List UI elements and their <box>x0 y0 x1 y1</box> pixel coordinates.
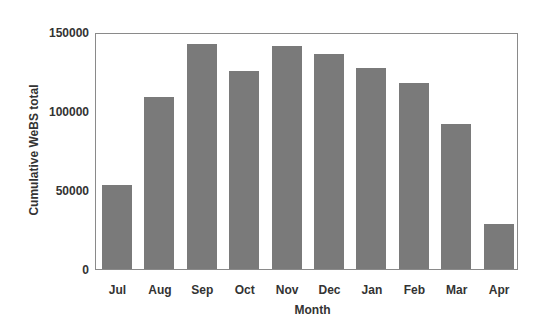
y-tick-label: 50000 <box>56 184 89 198</box>
bar-sep <box>187 44 217 269</box>
x-tick-label: Mar <box>437 283 477 297</box>
bar-apr <box>484 224 514 269</box>
bar-nov <box>272 46 302 269</box>
bar-jul <box>102 185 132 269</box>
plot-area <box>95 33 518 270</box>
x-tick-label: Oct <box>225 283 265 297</box>
y-axis-label: Cumulative WeBS total <box>27 84 41 215</box>
y-tick-label: 100000 <box>49 105 89 119</box>
bar-feb <box>399 83 429 269</box>
y-tick-label: 150000 <box>49 26 89 40</box>
x-tick-label: Aug <box>140 283 180 297</box>
y-tick-label: 0 <box>82 263 89 277</box>
x-tick-label: Jan <box>352 283 392 297</box>
x-tick-label: Sep <box>182 283 222 297</box>
bar-chart: Cumulative WeBS total 0 50000 100000 150… <box>0 0 540 326</box>
bar-dec <box>314 54 344 269</box>
bar-aug <box>144 97 174 269</box>
bar-jan <box>356 68 386 269</box>
x-axis-label: Month <box>0 303 540 317</box>
bar-mar <box>441 124 471 269</box>
x-tick-label: Dec <box>310 283 350 297</box>
x-tick-label: Jul <box>98 283 138 297</box>
bar-oct <box>229 71 259 269</box>
x-tick-label: Feb <box>394 283 434 297</box>
x-tick-label: Apr <box>479 283 519 297</box>
x-tick-label: Nov <box>267 283 307 297</box>
